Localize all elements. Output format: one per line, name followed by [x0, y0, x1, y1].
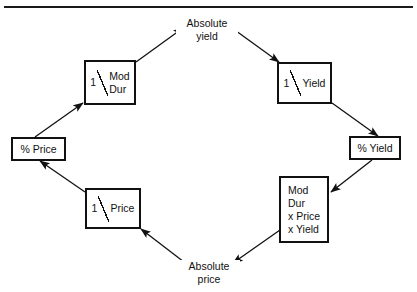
- edge-pct-yield-to-mod-dur-product: [331, 160, 372, 192]
- node-label: % Price: [20, 143, 56, 156]
- fraction-mod-dur: 1 Mod Dur: [90, 70, 129, 96]
- node-mod-dur-reciprocal[interactable]: 1 Mod Dur: [84, 60, 136, 105]
- node-yield-reciprocal[interactable]: 1 Yield: [277, 62, 332, 104]
- node-mod-dur-product[interactable]: Mod Dur x Price x Yield: [279, 176, 329, 243]
- absolute-price-line-2: price: [178, 273, 240, 286]
- fraction-price: 1 Price: [92, 196, 135, 222]
- figure-canvas: 1 Mod Dur 1 Yield % Price % Yield Mod Du…: [0, 0, 417, 292]
- fraction-yield: 1 Yield: [284, 70, 326, 96]
- fraction-numerator: 1: [92, 202, 98, 215]
- edge-absolute-price-to-price-recip: [141, 229, 184, 262]
- node-price-reciprocal[interactable]: 1 Price: [85, 188, 141, 229]
- node-label-stack: Mod Dur x Price x Yield: [288, 184, 320, 236]
- edge-yield-recip-to-pct-yield: [332, 103, 378, 136]
- denominator-line-1: Price: [110, 202, 134, 215]
- fraction-denominator: Mod Dur: [109, 70, 129, 95]
- edge-pct-price-to-mod-dur-recip: [35, 103, 83, 137]
- node-percent-price[interactable]: % Price: [11, 137, 66, 161]
- edge-price-recip-to-pct-price: [40, 161, 85, 192]
- absolute-price-line-1: Absolute: [178, 260, 240, 273]
- edge-absolute-yield-to-yield-recip: [232, 28, 279, 62]
- denominator-line-2: Dur: [109, 83, 129, 96]
- product-line-3: x Price: [288, 210, 320, 223]
- fraction-slash-icon: [98, 196, 109, 222]
- fraction-slash-icon: [97, 70, 108, 96]
- node-percent-yield[interactable]: % Yield: [349, 136, 401, 160]
- node-label: % Yield: [357, 142, 392, 155]
- fraction-numerator: 1: [284, 77, 290, 90]
- edge-mod-dur-product-to-absolute-price: [233, 230, 280, 263]
- product-line-2: Dur: [288, 197, 320, 210]
- fraction-slash-icon: [290, 70, 301, 96]
- node-absolute-yield: Absolute yield: [176, 17, 238, 42]
- absolute-yield-line-1: Absolute: [176, 17, 238, 30]
- fraction-denominator: Yield: [302, 77, 325, 90]
- product-line-4: x Yield: [288, 223, 320, 236]
- fraction-denominator: Price: [110, 202, 134, 215]
- product-line-1: Mod: [288, 184, 320, 197]
- denominator-line-1: Mod: [109, 70, 129, 83]
- absolute-yield-line-2: yield: [176, 30, 238, 43]
- node-absolute-price: Absolute price: [178, 260, 240, 285]
- denominator-line-1: Yield: [302, 77, 325, 90]
- fraction-numerator: 1: [90, 76, 96, 89]
